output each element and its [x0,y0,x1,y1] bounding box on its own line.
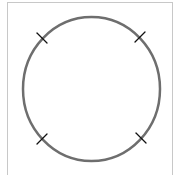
circle [23,17,160,161]
tick-marks [37,32,146,144]
diagram-canvas [0,0,178,175]
